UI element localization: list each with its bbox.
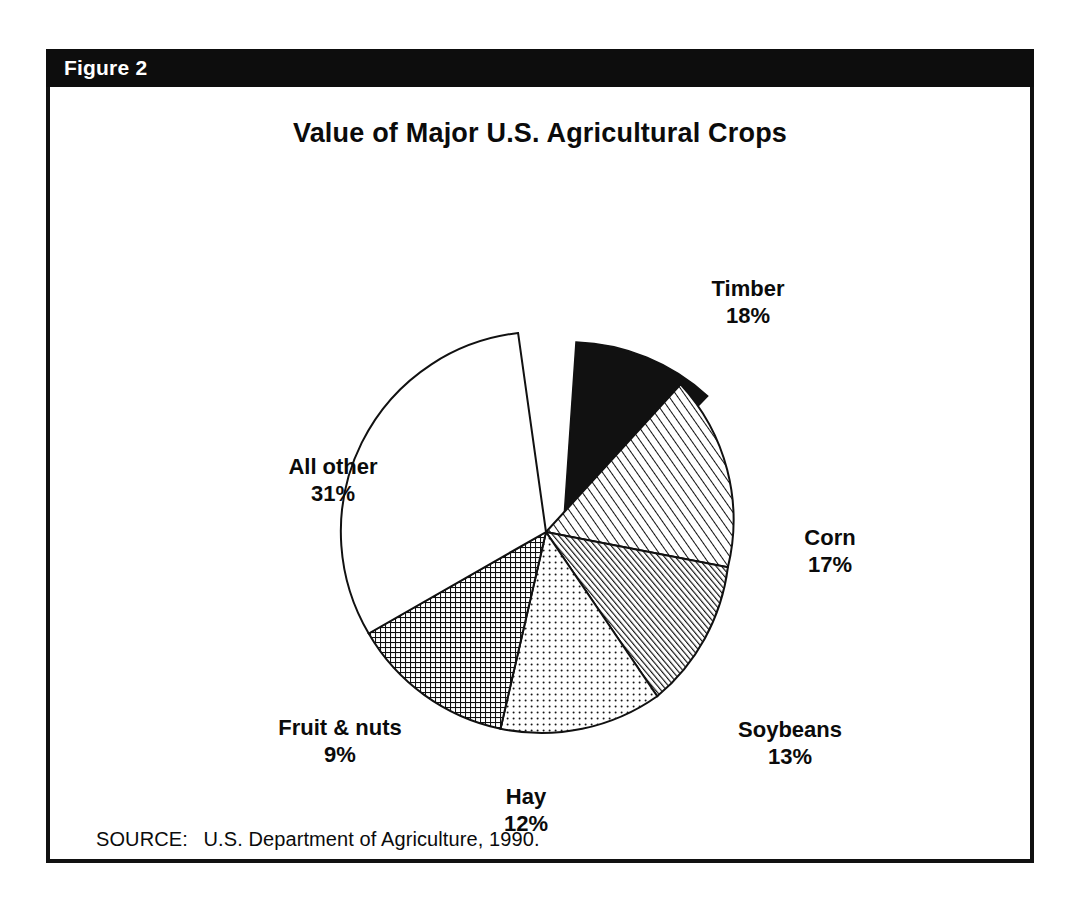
source-note: SOURCE: U.S. Department of Agriculture, …	[96, 828, 540, 851]
pie-chart-svg	[50, 87, 1030, 787]
pie-label-all-other-name: All other	[288, 454, 377, 479]
figure-frame: Figure 2 Value of Major U.S. Agricultura…	[46, 49, 1034, 863]
pie-label-corn-pct: 17%	[750, 551, 910, 578]
pie-label-corn-name: Corn	[804, 525, 855, 550]
source-label: SOURCE:	[96, 828, 188, 850]
pie-label-all-other-pct: 31%	[218, 480, 448, 507]
pie-label-all-other: All other 31%	[218, 453, 448, 507]
pie-label-soybeans-pct: 13%	[690, 743, 890, 770]
pie-label-fruit-nuts-pct: 9%	[210, 741, 470, 768]
figure-header-bar: Figure 2	[46, 49, 1034, 87]
pie-label-fruit-nuts-name: Fruit & nuts	[278, 715, 401, 740]
pie-label-fruit-nuts: Fruit & nuts 9%	[210, 714, 470, 768]
pie-label-hay-name: Hay	[506, 784, 546, 809]
pie-label-soybeans-name: Soybeans	[738, 717, 842, 742]
pie-label-timber-pct: 18%	[668, 302, 828, 329]
pie-label-timber: Timber 18%	[668, 275, 828, 329]
pie-label-corn: Corn 17%	[750, 524, 910, 578]
pie-label-timber-name: Timber	[712, 276, 785, 301]
figure-number-label: Figure 2	[64, 56, 147, 80]
figure-body: Value of Major U.S. Agricultural Crops	[46, 87, 1034, 863]
pie-slices	[341, 333, 734, 733]
pie-chart: Timber 18% Corn 17% Soybeans 13% Hay 12%…	[50, 87, 1030, 787]
pie-label-soybeans: Soybeans 13%	[690, 716, 890, 770]
source-text: U.S. Department of Agriculture, 1990.	[204, 828, 540, 850]
